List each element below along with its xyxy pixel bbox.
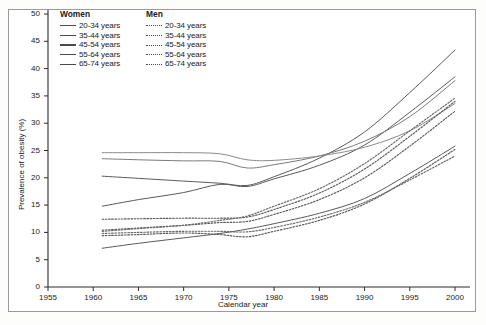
figure-container: 0510152025303540455019551960196519701975… [0, 0, 486, 325]
legend-item-women-65-74[interactable]: 65-74 years [60, 59, 120, 69]
x-axis-title: Calendar year [0, 300, 486, 309]
legend-item-men-35-44[interactable]: 35-44 years [146, 31, 206, 41]
legend-label: 55-64 years [165, 50, 206, 60]
legend-swatch-dashed-icon [146, 54, 162, 55]
legend-swatch-solid-icon [60, 44, 76, 45]
legend-heading-men: Men [146, 10, 206, 20]
y-tick-label: 45 [20, 36, 40, 45]
legend-label: 65-74 years [165, 59, 206, 69]
y-tick-label: 50 [20, 9, 40, 18]
series-line [102, 81, 455, 168]
legend-item-women-45-54[interactable]: 45-54 years [60, 40, 120, 50]
legend-label: 20-34 years [165, 21, 206, 31]
legend-label: 20-34 years [79, 21, 120, 31]
y-tick-label: 40 [20, 64, 40, 73]
legend-item-men-65-74[interactable]: 65-74 years [146, 59, 206, 69]
legend-label: 65-74 years [79, 59, 120, 69]
series-lines-group [102, 50, 455, 248]
legend-label: 45-54 years [79, 40, 120, 50]
legend-item-women-35-44[interactable]: 35-44 years [60, 31, 120, 41]
legend-label: 55-64 years [79, 50, 120, 60]
legend-swatch-dashed-icon [146, 25, 162, 26]
legend-label: 35-44 years [79, 31, 120, 41]
legend-heading-women: Women [60, 10, 120, 20]
legend-swatch-solid-icon [60, 25, 76, 26]
legend-item-men-20-34[interactable]: 20-34 years [146, 21, 206, 31]
legend-swatch-dashed-icon [146, 45, 162, 46]
legend-swatch-solid-icon [60, 35, 76, 36]
legend-swatch-solid-icon [60, 64, 76, 65]
y-tick-label: 0 [20, 282, 40, 291]
series-line [102, 156, 455, 234]
y-tick-label: 10 [20, 227, 40, 236]
series-line [102, 111, 455, 230]
legend-item-men-45-54[interactable]: 45-54 years [146, 40, 206, 50]
legend-swatch-dashed-icon [146, 35, 162, 36]
legend-swatch-solid-icon [60, 54, 76, 55]
legend-group-men: Men 20-34 years 35-44 years 45-54 years … [146, 10, 206, 69]
series-line [102, 149, 455, 236]
legend-swatch-dashed-icon [146, 64, 162, 65]
y-tick-label: 5 [20, 255, 40, 264]
y-tick-label: 35 [20, 91, 40, 100]
legend-label: 35-44 years [165, 31, 206, 41]
series-line [102, 77, 455, 206]
legend-item-women-55-64[interactable]: 55-64 years [60, 50, 120, 60]
legend-item-women-20-34[interactable]: 20-34 years [60, 21, 120, 31]
legend-group-women: Women 20-34 years 35-44 years 45-54 year… [60, 10, 120, 69]
y-axis-title: Prevalence of obesity (%) [17, 105, 26, 225]
legend-item-men-55-64[interactable]: 55-64 years [146, 50, 206, 60]
legend-label: 45-54 years [165, 40, 206, 50]
